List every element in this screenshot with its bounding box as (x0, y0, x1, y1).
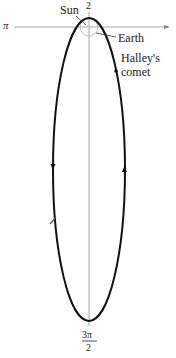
earth-label: Earth (118, 32, 144, 44)
comet-label-line2: comet (121, 66, 150, 78)
axis-label-bottom-numerator: 3π (82, 330, 92, 340)
arrow-up-icon (122, 166, 127, 172)
axis-label-bottom-denominator: 2 (86, 343, 91, 353)
sun-label: Sun (60, 4, 79, 16)
axis-label-top: 2 (86, 1, 91, 11)
axis-arrow-icon (164, 25, 170, 29)
comet-marker (114, 69, 118, 73)
sun-marker (87, 25, 91, 29)
arrow-down-icon (51, 164, 56, 170)
comet-label-line1: Halley's (121, 52, 160, 64)
axis-label-pi: π (3, 20, 9, 31)
